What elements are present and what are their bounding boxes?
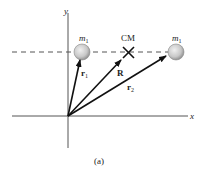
mass-left [74,44,90,60]
center-of-mass-diagram: y x m1 m1 CM r1 R r2 (a) [0,0,204,172]
mass-right [168,44,184,60]
mass-right-label: m1 [172,33,182,44]
y-axis-label: y [63,6,68,16]
vector-r2-label: r2 [127,82,134,93]
vector-r1 [68,60,80,116]
figure-caption: (a) [94,156,104,166]
x-axis-label: x [189,111,194,121]
vector-R-label: R [117,68,124,78]
cm-label: CM [121,33,135,43]
vector-r1-label: r1 [81,68,88,79]
mass-left-label: m1 [79,33,89,44]
